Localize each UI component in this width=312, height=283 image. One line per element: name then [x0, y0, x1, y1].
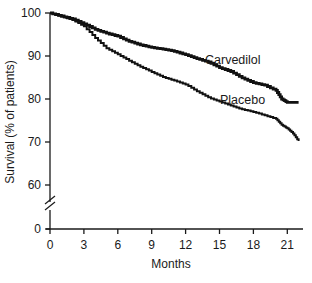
x-tick-label: 21: [281, 238, 295, 252]
y-tick-label: 60: [28, 178, 42, 192]
x-tick-label: 9: [148, 238, 155, 252]
x-axis-title: Months: [151, 257, 190, 271]
x-tick-label: 0: [47, 238, 54, 252]
x-tick-label: 15: [213, 238, 227, 252]
y-tick-label: 100: [21, 6, 41, 20]
x-tick-label: 18: [247, 238, 261, 252]
y-tick-label: 0: [34, 222, 41, 236]
carvedilol-label: Carvedilol: [205, 53, 261, 67]
y-tick-label: 90: [28, 49, 42, 63]
placebo-label: Placebo: [220, 93, 265, 107]
x-tick-label: 6: [114, 238, 121, 252]
placebo-curve: [50, 13, 299, 141]
x-tick-label: 3: [81, 238, 88, 252]
y-axis-title: Survival (% of patients): [3, 60, 17, 183]
y-ticks: 060708090100: [21, 6, 50, 236]
y-tick-label: 80: [28, 92, 42, 106]
x-ticks: 036912151821: [47, 229, 295, 252]
y-tick-label: 70: [28, 135, 42, 149]
x-tick-label: 12: [179, 238, 193, 252]
survival-chart: 060708090100 036912151821 Months Surviva…: [0, 0, 312, 283]
